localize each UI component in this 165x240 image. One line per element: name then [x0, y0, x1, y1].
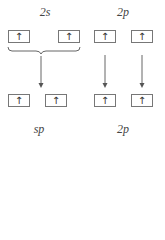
electron-up-icon: ↑	[95, 94, 115, 107]
electron-up-icon: ↑	[46, 94, 66, 107]
electron-up-icon: ↑	[132, 94, 152, 107]
orbital-2p-bottom-2: ↑	[131, 94, 153, 107]
orbital-sp-2: ↑	[45, 94, 67, 107]
label-2p-bottom: 2p	[103, 122, 143, 137]
label-sp-bottom: sp	[19, 122, 59, 137]
orbital-2p-bottom-1: ↑	[94, 94, 116, 107]
electron-up-icon: ↑	[9, 94, 29, 107]
orbital-sp-1: ↑	[8, 94, 30, 107]
